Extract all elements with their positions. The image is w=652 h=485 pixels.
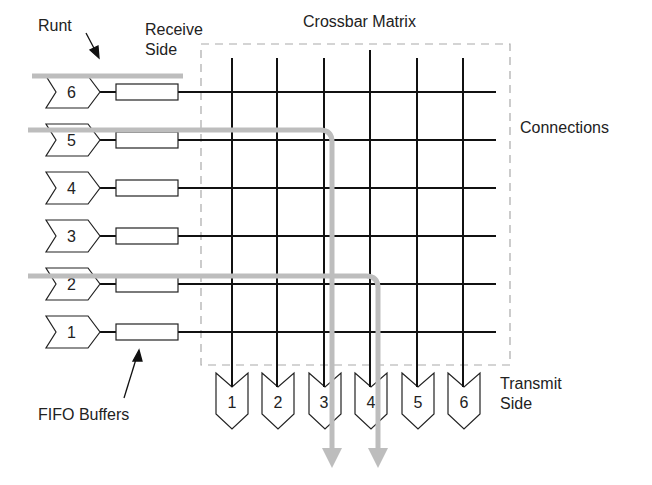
connections-label: Connections (520, 118, 609, 138)
output-port-2: 2 (274, 394, 283, 411)
output-port-4: 4 (367, 394, 376, 411)
input-port-2: 2 (67, 276, 76, 293)
output-port-6: 6 (460, 394, 469, 411)
fifo-buffers-label: FIFO Buffers (38, 405, 129, 425)
fifo-buffers (116, 84, 178, 340)
input-port-6: 6 (67, 84, 76, 101)
input-port-1: 1 (67, 324, 76, 341)
path-arrowheads (322, 448, 388, 468)
input-port-5: 5 (67, 132, 76, 149)
output-port-5: 5 (414, 394, 423, 411)
output-ports (216, 373, 480, 429)
runt-label: Runt (38, 16, 72, 36)
output-port-3: 3 (320, 394, 329, 411)
crossbar-diagram: 6 5 4 3 2 1 1 2 3 4 5 6 (0, 0, 652, 485)
input-ports (46, 76, 100, 348)
input-port-4: 4 (67, 180, 76, 197)
fifo-arrow (124, 356, 137, 398)
receive-side-label: Receive Side (145, 20, 203, 60)
output-port-1: 1 (228, 394, 237, 411)
transmit-side-label: Transmit Side (500, 374, 562, 414)
input-port-3: 3 (67, 228, 76, 245)
crossbar-matrix-label: Crossbar Matrix (303, 12, 416, 32)
output-lines (232, 50, 463, 380)
